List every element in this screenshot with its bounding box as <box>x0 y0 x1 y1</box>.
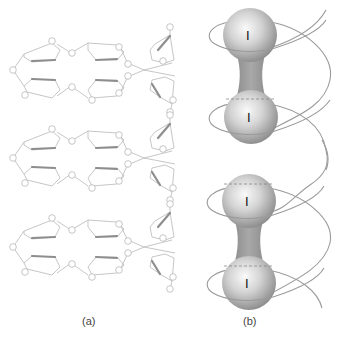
macrocycle-unit-1 <box>10 24 177 116</box>
diiodine-molecule-2: I I <box>222 174 276 310</box>
panel-label-b: (b) <box>243 315 256 327</box>
panel-label-a: (a) <box>82 315 95 327</box>
macrocycle-unit-3 <box>10 201 177 293</box>
iodine-atom-sphere <box>224 90 278 144</box>
atom-label: I <box>245 194 249 209</box>
iodine-atom-sphere <box>223 8 277 62</box>
helix-chain <box>207 10 330 308</box>
atom-label: I <box>245 276 249 291</box>
figure-canvas: I I I I <box>0 0 339 339</box>
panel-a-structure <box>10 24 177 293</box>
macrocycle-unit-2 <box>10 112 177 204</box>
helix-front <box>213 20 330 300</box>
iodine-atom-sphere <box>222 256 276 310</box>
atom-label: I <box>246 28 250 43</box>
iodine-atom-sphere <box>222 174 276 228</box>
diiodine-molecule-1: I I <box>223 8 278 144</box>
atom-label: I <box>247 110 251 125</box>
panel-b-structure: I I I I <box>207 8 330 310</box>
